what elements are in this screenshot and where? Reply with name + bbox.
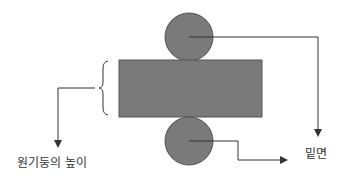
base-label: 밑면 bbox=[305, 147, 327, 161]
height-label: 원기둥의 높이 bbox=[17, 156, 87, 170]
cylinder-net-diagram bbox=[0, 0, 347, 181]
height-brace bbox=[99, 61, 108, 115]
lateral-surface-rectangle bbox=[119, 60, 262, 117]
height-leader-arrow bbox=[58, 88, 95, 146]
